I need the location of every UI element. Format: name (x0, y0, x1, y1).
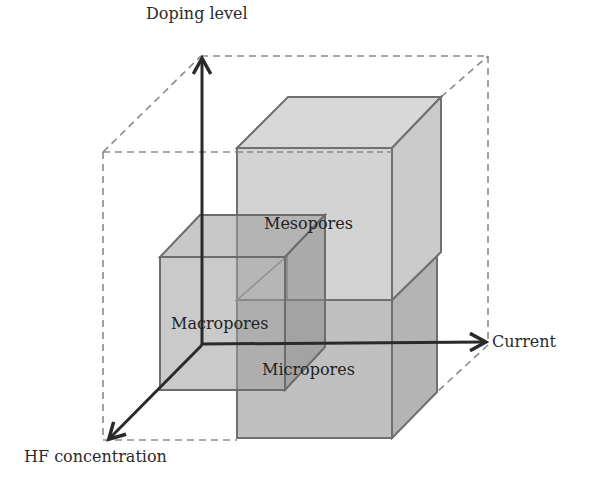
mesopores-label: Mesopores (264, 216, 353, 232)
doping-level-label: Doping level (146, 6, 248, 22)
macropores-label: Macropores (171, 316, 268, 332)
current-label: Current (492, 334, 556, 350)
micropores-label: Micropores (262, 362, 355, 378)
diagram-svg (0, 0, 590, 485)
diagram-canvas: Doping level Current HF concentration Me… (0, 0, 590, 485)
hf-concentration-label: HF concentration (24, 449, 167, 465)
current-axis (202, 342, 484, 344)
hf-concentration-axis (110, 345, 202, 438)
